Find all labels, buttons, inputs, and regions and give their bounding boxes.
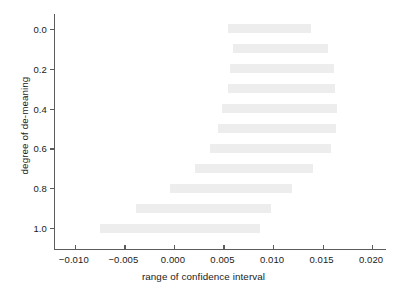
x-axis-label: range of confidence interval bbox=[0, 271, 407, 282]
x-tick-mark bbox=[124, 245, 125, 250]
x-tick-mark bbox=[372, 245, 373, 250]
x-tick-label: 0.000 bbox=[161, 254, 185, 265]
y-axis-label: degree of de-meaning bbox=[19, 46, 30, 206]
ci-bar bbox=[195, 164, 313, 173]
y-tick-label: 0.6 bbox=[33, 143, 47, 154]
x-tick-mark bbox=[174, 245, 175, 250]
y-tick-label: 1.0 bbox=[33, 223, 47, 234]
ci-bar bbox=[233, 44, 327, 53]
ci-bar bbox=[136, 204, 271, 213]
y-tick-mark bbox=[50, 228, 55, 229]
bars-layer bbox=[55, 14, 386, 249]
ci-bar bbox=[218, 124, 337, 133]
x-tick-label: 0.020 bbox=[359, 254, 383, 265]
x-tick-mark bbox=[323, 245, 324, 250]
ci-bar bbox=[228, 24, 310, 33]
x-tick-label: 0.010 bbox=[260, 254, 284, 265]
ci-bar bbox=[170, 184, 292, 193]
y-tick-mark bbox=[50, 109, 55, 110]
y-tick-label: 0.2 bbox=[33, 63, 47, 74]
y-tick-label: 0.0 bbox=[33, 23, 47, 34]
y-tick-label: 0.4 bbox=[33, 103, 47, 114]
y-tick-mark bbox=[50, 188, 55, 189]
confidence-interval-chart: −0.010−0.0050.0000.0050.0100.0150.020 0.… bbox=[0, 0, 407, 300]
x-tick-label: −0.010 bbox=[59, 254, 89, 265]
y-tick-mark bbox=[50, 148, 55, 149]
ci-bar bbox=[100, 224, 261, 233]
x-tick-mark bbox=[75, 245, 76, 250]
x-tick-label: 0.005 bbox=[210, 254, 234, 265]
plot-area bbox=[54, 14, 386, 250]
ci-bar bbox=[228, 84, 335, 93]
ci-bar bbox=[222, 104, 337, 113]
x-tick-label: −0.005 bbox=[108, 254, 138, 265]
ci-bar bbox=[210, 144, 331, 153]
ci-bar bbox=[230, 64, 334, 73]
x-tick-mark bbox=[273, 245, 274, 250]
y-tick-mark bbox=[50, 69, 55, 70]
x-tick-label: 0.015 bbox=[309, 254, 333, 265]
x-tick-mark bbox=[223, 245, 224, 250]
y-tick-label: 0.8 bbox=[33, 183, 47, 194]
y-tick-mark bbox=[50, 29, 55, 30]
